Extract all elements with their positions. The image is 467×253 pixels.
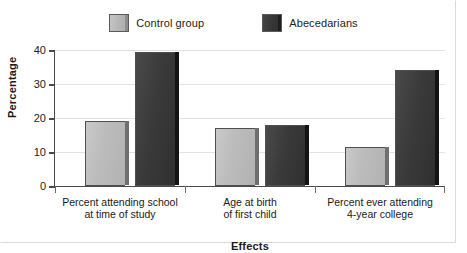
legend-label-abecedarians: Abecedarians: [289, 17, 357, 29]
legend-label-control-group: Control group: [136, 17, 204, 29]
chart-figure: Control group Abecedarians Percentage 40…: [0, 0, 467, 253]
category-label-1: Percent attending school at time of stud…: [55, 196, 185, 220]
y-axis-title: Percentage: [6, 57, 18, 118]
legend-swatch-control-icon: [109, 14, 129, 32]
category-separator-0: [55, 186, 56, 193]
bar-abecedarians-3: [395, 70, 435, 186]
ytick-label-40: 40: [34, 44, 46, 56]
bar-shadow: [125, 121, 129, 185]
bar-group-3: [315, 50, 445, 186]
bar-control-group-2: [215, 128, 255, 186]
category-label-3-line-2: 4-year college: [315, 208, 445, 220]
category-label-1-line-2: at time of study: [55, 208, 185, 220]
bar-shadow: [175, 52, 179, 185]
legend-item-abecedarians: Abecedarians: [262, 14, 357, 32]
bar-control-group-1: [85, 121, 125, 186]
bar-shadow: [385, 147, 389, 185]
category-label-3-line-1: Percent ever attending: [315, 196, 445, 208]
legend-item-control-group: Control group: [109, 14, 204, 32]
category-label-2-line-2: of first child: [185, 208, 315, 220]
category-label-2: Age at birth of first child: [185, 196, 315, 220]
legend-swatch-abecedarians-icon: [262, 14, 282, 32]
category-label-3: Percent ever attending 4-year college: [315, 196, 445, 220]
category-label-1-line-1: Percent attending school: [55, 196, 185, 208]
category-separator-1: [185, 186, 186, 193]
x-axis-title: Effects: [55, 240, 445, 252]
chart-legend: Control group Abecedarians: [0, 14, 467, 32]
bar-shadow: [255, 128, 259, 185]
ytick-label-30: 30: [34, 78, 46, 90]
bar-control-group-3: [345, 147, 385, 186]
category-separator-2: [315, 186, 316, 193]
category-label-2-line-1: Age at birth: [185, 196, 315, 208]
bar-group-1: [55, 50, 185, 186]
bar-abecedarians-1: [135, 52, 175, 186]
bar-abecedarians-2: [265, 125, 305, 186]
bar-group-2: [185, 50, 315, 186]
bar-shadow: [435, 70, 439, 185]
ytick-label-10: 10: [34, 146, 46, 158]
category-separator-3: [444, 186, 445, 193]
plot-area: 40 30 20 10 0: [54, 50, 445, 187]
ytick-label-0: 0: [40, 180, 46, 192]
ytick-label-20: 20: [34, 112, 46, 124]
bar-shadow: [305, 125, 309, 185]
